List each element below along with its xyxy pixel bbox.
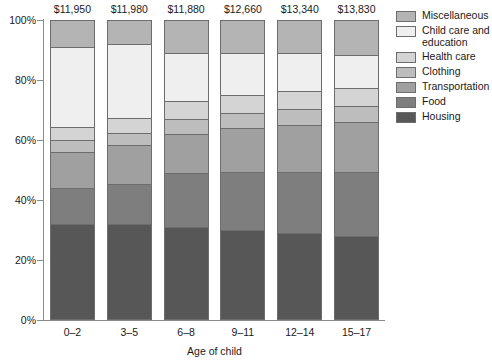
legend-item[interactable]: Food [396,96,492,108]
bar-segment [221,114,264,129]
bar-segment [51,225,94,320]
bar-column[interactable] [50,20,95,320]
bar-segment [278,234,321,320]
x-axis-category-label: 9–11 [213,326,273,338]
legend-swatch-icon [396,26,416,37]
bar-segment [335,237,378,320]
bar-segment [108,185,151,226]
bar-segment [221,54,264,96]
bar-segment [108,134,151,146]
bar-segment [221,21,264,54]
bar-segment [51,189,94,225]
legend-swatch-icon [396,11,416,22]
bar-segment [335,173,378,238]
bar-segment [221,96,264,114]
legend-item[interactable]: Clothing [396,66,492,78]
bar-segment [165,135,208,174]
y-axis-label: 0% [2,315,36,325]
y-axis-label: 100% [2,15,36,25]
y-axis-tick [37,260,44,261]
bar-segment [278,110,321,127]
bar-total-label: $12,660 [213,4,273,15]
bar-segment [335,56,378,89]
legend-item-label: Clothing [422,66,461,78]
legend-item-label: Health care [422,51,476,63]
legend-item-label: Child care and education [422,25,490,48]
y-axis-label: 20% [2,255,36,265]
x-axis-category-label: 12–14 [270,326,330,338]
bar-total-label: $13,340 [270,4,330,15]
bar-segment [165,102,208,120]
bar-segment [165,54,208,102]
bar-segment [51,141,94,153]
bar-segment [221,173,264,232]
y-axis-label: 80% [2,75,36,85]
bar-column[interactable] [164,20,209,320]
bar-total-label: $11,880 [156,4,216,15]
bar-segment [165,21,208,54]
bar-segment [335,123,378,173]
bar-column[interactable] [334,20,379,320]
legend-swatch-icon [396,112,416,123]
x-axis-category-label: 3–5 [99,326,159,338]
legend-swatch-icon [396,97,416,108]
bar-segment [51,128,94,142]
bar-segment [108,45,151,119]
y-axis-tick [37,20,44,21]
legend-item[interactable]: Miscellaneous [396,10,492,22]
x-axis-line [43,320,385,321]
bar-segment [278,126,321,173]
x-axis-category-label: 0–2 [42,326,102,338]
x-axis-title: Age of child [44,345,385,357]
y-axis-tick [37,200,44,201]
legend-swatch-icon [396,52,416,63]
bar-total-label: $13,830 [327,4,387,15]
bar-segment [51,21,94,48]
bar-segment [108,119,151,134]
legend-item-label: Transportation [422,81,489,93]
bar-segment [278,21,321,54]
bar-total-label: $11,950 [42,4,102,15]
y-axis-label: 60% [2,135,36,145]
bar-segment [278,54,321,92]
y-axis-tick [37,320,44,321]
bar-segment [108,225,151,320]
y-axis-tick [37,140,44,141]
x-axis-category-label: 15–17 [327,326,387,338]
bar-segment [51,48,94,128]
legend-swatch-icon [396,67,416,78]
legend-item[interactable]: Transportation [396,81,492,93]
bar-segment [165,174,208,228]
bar-segment [108,146,151,185]
bar-column[interactable] [277,20,322,320]
stacked-bar-chart: 0%20%40%60%80%100% $11,950$11,980$11,880… [0,0,492,364]
bar-segment [335,21,378,56]
y-axis-labels: 0%20%40%60%80%100% [0,0,36,364]
x-axis-category-label: 6–8 [156,326,216,338]
bar-segment [165,120,208,135]
bar-segment [221,129,264,173]
y-axis-label: 40% [2,195,36,205]
legend-item-label: Housing [422,111,461,123]
bar-segment [335,89,378,107]
y-axis-tick [37,80,44,81]
bar-segment [108,21,151,45]
chart-legend: MiscellaneousChild care and educationHea… [396,10,492,126]
legend-item[interactable]: Health care [396,51,492,63]
legend-item-label: Food [422,96,446,108]
bar-column[interactable] [220,20,265,320]
bar-segment [278,173,321,235]
bar-total-label: $11,980 [99,4,159,15]
plot-area [44,20,385,320]
bar-segment [278,92,321,110]
bar-segment [51,153,94,189]
bar-segment [165,228,208,320]
legend-item[interactable]: Housing [396,111,492,123]
legend-swatch-icon [396,82,416,93]
bar-column[interactable] [107,20,152,320]
bar-segment [221,231,264,320]
legend-item[interactable]: Child care and education [396,25,492,48]
bar-segment [335,107,378,124]
legend-item-label: Miscellaneous [422,10,489,22]
